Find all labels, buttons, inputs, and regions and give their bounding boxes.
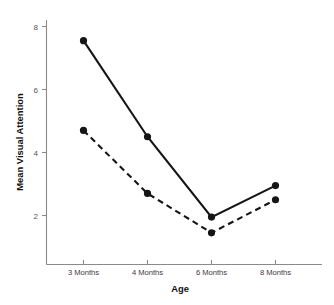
data-point[interactable] <box>80 37 87 44</box>
data-point[interactable] <box>208 213 215 220</box>
data-point[interactable] <box>272 196 279 203</box>
series-line-solid-line-series <box>84 41 276 217</box>
data-point[interactable] <box>80 127 87 134</box>
x-tick-label-8-months: 8 Months <box>260 268 291 277</box>
y-tick-label-6: 6 <box>34 86 39 95</box>
data-point[interactable] <box>144 133 151 140</box>
data-point[interactable] <box>144 190 151 197</box>
x-axis-title: Age <box>171 283 189 294</box>
data-point[interactable] <box>272 182 279 189</box>
y-tick-label-2: 2 <box>34 212 39 221</box>
y-tick-label-8: 8 <box>34 23 39 32</box>
y-axis-title: Mean Visual Attention <box>14 93 25 191</box>
series-layer <box>80 37 279 236</box>
series-line-dashed-line-series <box>84 130 276 232</box>
x-tick-label-4-months: 4 Months <box>132 268 163 277</box>
x-tick-label-3-months: 3 Months <box>68 268 99 277</box>
x-tick-label-6-months: 6 Months <box>196 268 227 277</box>
y-tick-label-4: 4 <box>34 149 39 158</box>
data-point[interactable] <box>208 229 215 236</box>
chart-figure: 8 6 4 2 3 Months 4 Months 6 Months 8 Mon… <box>0 0 334 305</box>
line-chart-canvas: 8 6 4 2 3 Months 4 Months 6 Months 8 Mon… <box>0 0 334 305</box>
